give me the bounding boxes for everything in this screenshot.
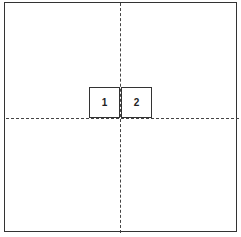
box-1-label: 1	[102, 97, 108, 108]
box-1: 1	[89, 87, 120, 118]
box-2-label: 2	[134, 97, 140, 108]
horizontal-center-axis	[6, 118, 239, 119]
box-2: 2	[121, 87, 152, 118]
